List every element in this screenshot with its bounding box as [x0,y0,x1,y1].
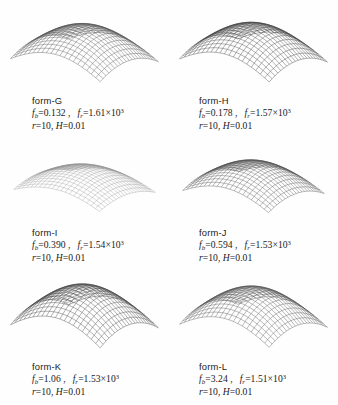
fb-value: =3.24 [205,373,227,384]
param-comma: , [66,239,71,250]
h-symbol: H [56,386,63,397]
r-value: =10, [36,386,54,397]
surface-plot-form-k [0,265,169,361]
caption-rh-line: r=10, H=0.01 [32,120,124,131]
surface-plot-form-g [0,0,169,96]
caption-params-line: fb=0.594 ,fr=1.53×103 [199,239,291,252]
param-comma: , [66,107,71,118]
h-symbol: H [56,120,63,131]
fr-value: =1.61×10 [83,107,121,118]
fr-exponent: 3 [116,373,119,380]
fr-value: =1.51×10 [245,373,283,384]
fb-value: =0.594 [205,239,232,250]
surface-panel-grid: form-G fb=0.132 ,fr=1.61×103 r=10, H=0.0… [0,0,338,405]
panel-form-l: form-L fb=3.24 ,fr=1.51×103 r=10, H=0.01 [169,265,338,405]
h-symbol: H [223,252,230,263]
fr-exponent: 3 [121,107,124,114]
fr-value: =1.53×10 [78,373,116,384]
panel-form-j: form-J fb=0.594 ,fr=1.53×103 r=10, H=0.0… [169,135,338,265]
caption-title: form-K [32,361,119,372]
fr-exponent: 3 [121,239,124,246]
fr-value: =1.54×10 [83,239,121,250]
caption-params-line: fb=0.132 ,fr=1.61×103 [32,107,124,120]
fr-value: =1.53×10 [250,239,288,250]
fb-value: =0.178 [205,107,232,118]
panel-form-h: form-H fb=0.178 ,fr=1.57×103 r=10, H=0.0… [169,0,338,135]
caption-params-line: fb=0.390 ,fr=1.54×103 [32,239,124,252]
caption-form-i: form-I fb=0.390 ,fr=1.54×103 r=10, H=0.0… [32,227,124,263]
caption-form-k: form-K fb=1.06 ,fr=1.53×103 r=10, H=0.01 [32,361,119,397]
surface-plot-form-h [169,0,338,96]
fb-value: =0.390 [38,239,65,250]
h-value: =0.01 [230,252,252,263]
fr-value: =1.57×10 [250,107,288,118]
surface-plot-form-j [169,135,338,227]
caption-title: form-I [32,227,124,238]
caption-params-line: fb=3.24 ,fr=1.51×103 [199,373,286,386]
panel-form-i: form-I fb=0.390 ,fr=1.54×103 r=10, H=0.0… [0,135,169,265]
caption-form-j: form-J fb=0.594 ,fr=1.53×103 r=10, H=0.0… [199,227,291,263]
caption-title: form-H [199,95,291,106]
panel-form-k: form-K fb=1.06 ,fr=1.53×103 r=10, H=0.01 [0,265,169,405]
caption-form-g: form-G fb=0.132 ,fr=1.61×103 r=10, H=0.0… [32,95,124,131]
caption-title: form-J [199,227,291,238]
h-value: =0.01 [63,386,85,397]
param-comma: , [61,373,66,384]
r-value: =10, [203,252,221,263]
fr-exponent: 3 [288,239,291,246]
param-comma: , [233,239,238,250]
caption-form-l: form-L fb=3.24 ,fr=1.51×103 r=10, H=0.01 [199,361,286,397]
panel-form-g: form-G fb=0.132 ,fr=1.61×103 r=10, H=0.0… [0,0,169,135]
r-value: =10, [36,252,54,263]
r-value: =10, [203,120,221,131]
h-value: =0.01 [63,120,85,131]
h-value: =0.01 [63,252,85,263]
fr-exponent: 3 [283,373,286,380]
h-value: =0.01 [230,386,252,397]
h-symbol: H [223,386,230,397]
surface-plot-form-i [0,135,169,227]
fr-exponent: 3 [288,107,291,114]
r-value: =10, [203,386,221,397]
surface-plot-form-l [169,265,338,361]
h-symbol: H [223,120,230,131]
param-comma: , [233,107,238,118]
fb-value: =0.132 [38,107,65,118]
caption-params-line: fb=1.06 ,fr=1.53×103 [32,373,119,386]
caption-rh-line: r=10, H=0.01 [32,252,124,263]
h-symbol: H [56,252,63,263]
h-value: =0.01 [230,120,252,131]
caption-rh-line: r=10, H=0.01 [199,120,291,131]
caption-title: form-L [199,361,286,372]
caption-params-line: fb=0.178 ,fr=1.57×103 [199,107,291,120]
caption-rh-line: r=10, H=0.01 [199,386,286,397]
r-value: =10, [36,120,54,131]
caption-rh-line: r=10, H=0.01 [199,252,291,263]
caption-rh-line: r=10, H=0.01 [32,386,119,397]
fb-value: =1.06 [38,373,60,384]
caption-form-h: form-H fb=0.178 ,fr=1.57×103 r=10, H=0.0… [199,95,291,131]
caption-title: form-G [32,95,124,106]
figure-sheet: form-G fb=0.132 ,fr=1.61×103 r=10, H=0.0… [0,0,338,405]
param-comma: , [228,373,233,384]
